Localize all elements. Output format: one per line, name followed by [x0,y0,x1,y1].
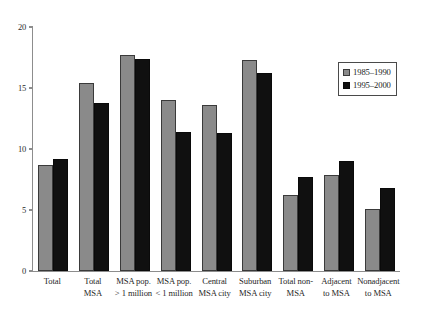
legend-swatch-icon [343,69,350,76]
x-axis-label: Total [32,276,73,288]
bar[interactable] [135,59,150,271]
legend-swatch-icon [343,82,350,89]
bar[interactable] [79,83,94,271]
legend-item-series-a[interactable]: 1985–1990 [343,66,391,79]
bar[interactable] [298,177,313,271]
x-axis-label: Total non- MSA [275,276,316,299]
bar[interactable] [53,159,68,271]
bar[interactable] [324,175,339,271]
bar[interactable] [94,103,109,271]
bar[interactable] [120,55,135,271]
bar[interactable] [365,209,380,271]
bar[interactable] [202,105,217,271]
y-axis-tick-label: 20 [18,23,26,32]
bar-group [115,27,156,271]
legend: 1985–1990 1995–2000 [338,62,397,96]
bar[interactable] [257,73,272,271]
y-axis-tick-label: 10 [18,145,26,154]
legend-item-series-b[interactable]: 1995–2000 [343,79,391,92]
bar[interactable] [380,188,395,271]
legend-label: 1995–2000 [353,81,391,90]
x-axis-label: MSA pop. < 1 million [154,276,195,299]
legend-label: 1985–1990 [353,68,391,77]
x-axis-label: Central MSA city [194,276,235,299]
bar-group [196,27,237,271]
bar[interactable] [242,60,257,271]
bar-group [74,27,115,271]
x-axis-labels: TotalTotal MSAMSA pop. > 1 millionMSA po… [32,276,400,299]
bar-group [155,27,196,271]
x-axis-label: Adjacent to MSA [316,276,357,299]
y-axis-tick-label: 0 [22,267,26,276]
bar-chart: 20 15 10 5 0 TotalTotal MSAMSA pop. > 1 … [0,0,430,316]
bar[interactable] [217,133,232,271]
bar-group [237,27,278,271]
bar[interactable] [38,165,53,271]
x-axis-label: Total MSA [73,276,114,299]
bar-group [33,27,74,271]
y-axis-tick-label: 5 [22,206,26,215]
bar[interactable] [161,100,176,271]
x-axis-label: MSA pop. > 1 million [113,276,154,299]
bar[interactable] [283,195,298,271]
bar[interactable] [339,161,354,271]
bar-group [278,27,319,271]
x-axis-label: Nonadjacent to MSA [357,276,400,299]
x-axis-label: Suburban MSA city [235,276,276,299]
bar[interactable] [176,132,191,271]
y-axis-tick-label: 15 [18,84,26,93]
